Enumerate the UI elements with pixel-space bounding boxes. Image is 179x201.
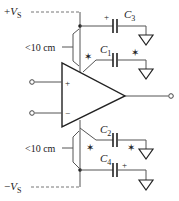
- star-marker-icon: ✶: [131, 47, 139, 58]
- c4-label: C4: [100, 152, 111, 167]
- star-marker-icon: ✶: [86, 142, 94, 153]
- star-marker-icon: ✶: [127, 142, 135, 153]
- c4-polarity: +: [122, 160, 127, 170]
- c1-label: C1: [100, 43, 111, 58]
- opamp-triangle: [62, 63, 125, 127]
- c3-label: C3: [124, 8, 135, 23]
- noninverting-input-terminal: [30, 80, 35, 85]
- distance-bracket-bottom: [73, 131, 79, 168]
- inverting-input-terminal: [30, 111, 35, 116]
- distance-label-bottom: <10 cm: [25, 143, 56, 154]
- c2-pin-lead: [80, 128, 96, 140]
- ground-icon: [139, 180, 153, 190]
- circuit-diagram: +VS + C3 <10 cm ✶ ✶ C1 + − −VS ✶ ✶ C2: [0, 0, 179, 201]
- star-marker-icon: ✶: [84, 51, 92, 62]
- c2-label: C2: [100, 123, 111, 138]
- ground-icon: [139, 69, 153, 79]
- ground-icon: [139, 35, 153, 45]
- supply-negative-label: −VS: [4, 180, 21, 195]
- opamp-minus-label: −: [65, 108, 70, 118]
- supply-positive-label: +VS: [4, 5, 21, 20]
- c3-polarity: +: [104, 12, 109, 22]
- ground-icon: [139, 149, 153, 159]
- distance-bracket-top: [73, 29, 79, 66]
- output-terminal: [169, 94, 174, 99]
- opamp-plus-label: +: [65, 78, 70, 88]
- distance-label-top: <10 cm: [25, 42, 56, 53]
